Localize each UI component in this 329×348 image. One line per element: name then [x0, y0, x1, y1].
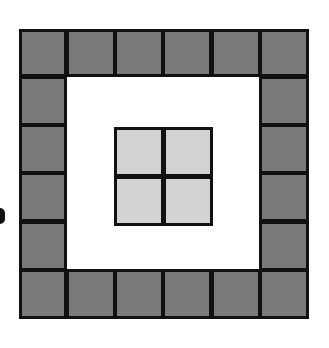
outer-tile — [114, 269, 164, 319]
center-tile — [163, 127, 213, 177]
outer-tile — [211, 29, 261, 77]
outer-tile — [259, 269, 309, 319]
outer-tile — [19, 29, 67, 77]
center-tile — [114, 127, 164, 177]
tile-diagram — [0, 0, 329, 348]
outer-tile — [259, 221, 309, 271]
outer-tile — [259, 29, 309, 77]
outer-tile — [259, 76, 309, 126]
outer-tile — [211, 269, 261, 319]
outer-tile — [162, 269, 212, 319]
outer-tile — [19, 269, 67, 319]
edge-mark — [0, 208, 5, 224]
outer-tile — [114, 29, 164, 77]
outer-tile — [66, 29, 116, 77]
outer-tile — [66, 269, 116, 319]
outer-tile — [19, 76, 67, 126]
center-tile — [163, 176, 213, 226]
outer-tile — [19, 124, 67, 174]
outer-tile — [19, 172, 67, 222]
outer-tile — [162, 29, 212, 77]
outer-tile — [19, 221, 67, 271]
outer-tile — [259, 172, 309, 222]
center-tile — [114, 176, 164, 226]
outer-tile — [259, 124, 309, 174]
